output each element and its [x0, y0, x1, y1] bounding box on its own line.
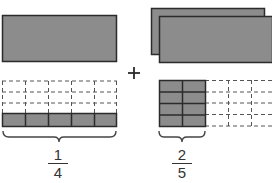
right-fraction-label: 2 5 [172, 147, 192, 180]
left-grid-dashed [2, 81, 117, 113]
plus-operator [128, 67, 140, 79]
left-whole-rectangle [3, 16, 117, 62]
right-brace [159, 131, 205, 142]
left-fraction-denominator: 4 [48, 164, 68, 180]
fraction-addition-diagram [0, 0, 272, 183]
right-whole-rectangle-front [160, 17, 273, 63]
right-fraction-numerator: 2 [172, 147, 192, 164]
right-grid-dashed [205, 80, 272, 126]
left-fraction-label: 1 4 [48, 147, 68, 180]
right-fraction-denominator: 5 [172, 164, 192, 180]
left-fraction-numerator: 1 [48, 147, 68, 164]
left-brace [3, 131, 116, 142]
right-grid-shaded-columns [159, 80, 206, 127]
left-grid-shaded-row [3, 113, 117, 127]
